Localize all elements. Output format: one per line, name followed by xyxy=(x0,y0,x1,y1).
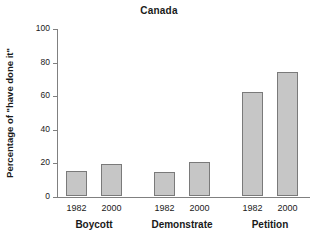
x-tick-label: 1982 xyxy=(148,203,182,213)
x-axis-line xyxy=(57,197,310,198)
group-label: Demonstrate xyxy=(132,219,232,230)
bar-chart: Canada Percentage of "have done it" 0204… xyxy=(0,0,318,247)
y-tick-label: 80 xyxy=(41,57,50,67)
group-label: Boycott xyxy=(44,219,144,230)
y-tick-label: 60 xyxy=(41,90,50,100)
y-tick-mark xyxy=(53,29,57,30)
x-tick-label: 2000 xyxy=(95,203,129,213)
x-tick-label: 2000 xyxy=(271,203,305,213)
x-tick-label: 1982 xyxy=(236,203,270,213)
bar xyxy=(277,72,298,196)
x-tick-label: 2000 xyxy=(183,203,217,213)
bar xyxy=(154,172,175,196)
plot-area: 020406080100 198220001982200019822000 Bo… xyxy=(57,29,310,197)
y-tick-mark xyxy=(53,63,57,64)
bar xyxy=(189,162,210,196)
y-tick-mark xyxy=(53,130,57,131)
y-axis-label: Percentage of "have done it" xyxy=(4,48,15,178)
group-label: Petition xyxy=(220,219,318,230)
x-tick-label: 1982 xyxy=(60,203,94,213)
y-tick-mark xyxy=(53,96,57,97)
y-tick-label: 40 xyxy=(41,124,50,134)
bar xyxy=(66,171,87,196)
y-tick-label: 20 xyxy=(41,157,50,167)
bar xyxy=(242,92,263,196)
y-axis-line xyxy=(57,29,58,198)
chart-title: Canada xyxy=(0,5,318,16)
y-tick-label: 100 xyxy=(36,23,50,33)
y-axis-label-container: Percentage of "have done it" xyxy=(0,29,18,197)
y-tick-label: 0 xyxy=(45,191,50,201)
y-tick-mark xyxy=(53,163,57,164)
bar xyxy=(101,164,122,196)
y-tick-mark xyxy=(53,197,57,198)
